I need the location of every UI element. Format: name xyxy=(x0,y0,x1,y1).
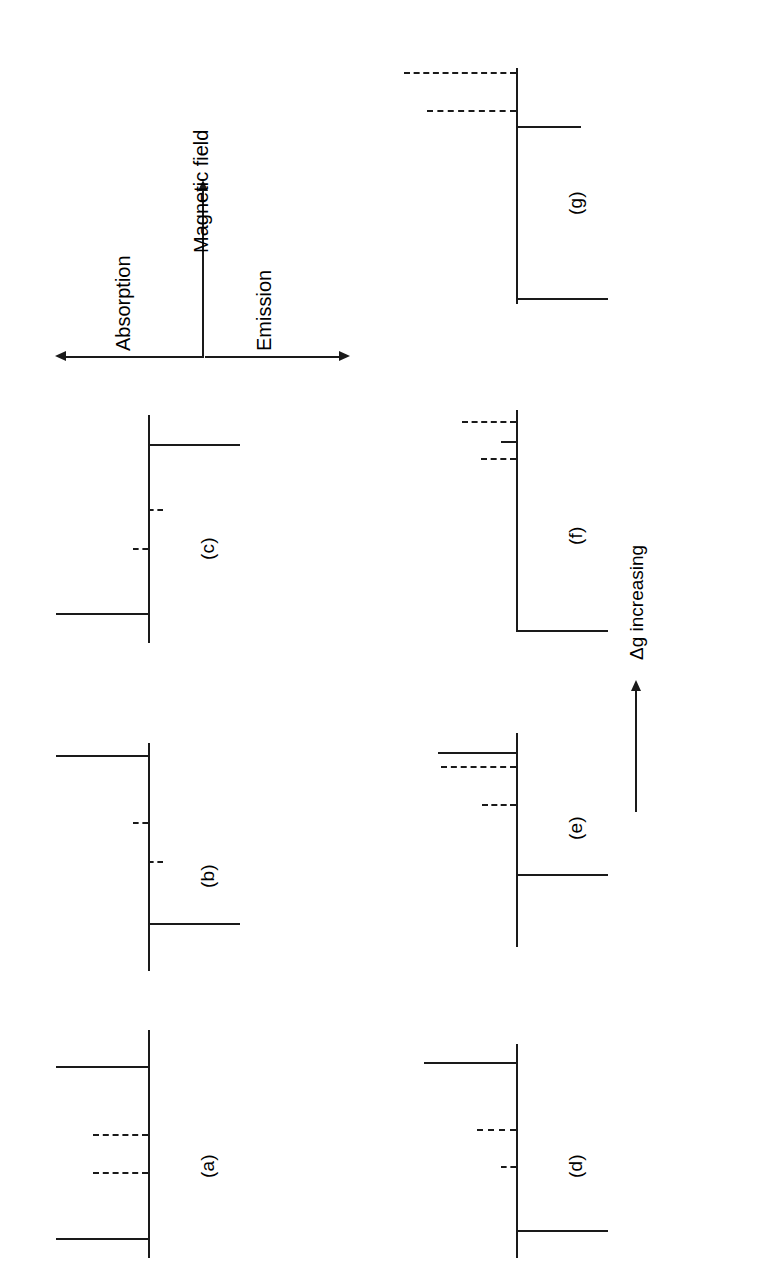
panel-f-caption: (f) xyxy=(565,526,587,545)
delta-g-arrow-line xyxy=(635,690,637,812)
magnetic-field-axis-label: Magnetic field xyxy=(190,130,213,253)
emission-arrowhead xyxy=(339,351,350,361)
panel-f-line-3 xyxy=(501,441,516,443)
panel-c-line-4 xyxy=(56,613,148,615)
panel-d-baseline xyxy=(516,1044,518,1258)
panel-b-line-1 xyxy=(56,755,148,757)
panel-a-line-4 xyxy=(56,1238,148,1240)
panel-e-line-1 xyxy=(516,874,608,876)
intensity-axis-line xyxy=(205,356,341,358)
panel-g-line-4 xyxy=(404,72,516,74)
panel-g-baseline xyxy=(516,68,518,304)
panel-g-caption: (g) xyxy=(565,191,587,215)
panel-a-baseline xyxy=(148,1030,150,1258)
panel-a-line-2 xyxy=(93,1134,148,1136)
panel-g-line-2 xyxy=(516,126,581,128)
panel-a-line-1 xyxy=(56,1066,148,1068)
panel-d-line-3 xyxy=(501,1166,516,1168)
panel-a-line-3 xyxy=(93,1172,148,1174)
panel-f-line-2 xyxy=(481,458,516,460)
panel-e-line-2 xyxy=(438,752,516,754)
panel-e-line-3 xyxy=(441,766,516,768)
panel-e-baseline xyxy=(516,733,518,947)
panel-c-line-3 xyxy=(133,548,148,550)
panel-e-caption: (e) xyxy=(565,816,587,840)
panel-b-baseline xyxy=(148,743,150,971)
delta-g-label: Δg increasing xyxy=(626,545,648,660)
figure-canvas: (a) (b) (c) Magnetic field Emission Abso… xyxy=(0,0,761,1281)
panel-b-caption: (b) xyxy=(197,864,219,888)
panel-c-baseline xyxy=(148,415,150,643)
panel-g-line-1 xyxy=(516,298,608,300)
panel-d-line-2 xyxy=(477,1129,516,1131)
panel-a-caption: (a) xyxy=(197,1154,219,1178)
panel-c-line-1 xyxy=(148,444,240,446)
panel-f-baseline xyxy=(516,410,518,632)
panel-g-line-3 xyxy=(427,110,516,112)
panel-e-line-4 xyxy=(482,804,516,806)
emission-axis-label: Emission xyxy=(253,270,276,351)
panel-d-line-1 xyxy=(424,1062,516,1064)
panel-c-line-2 xyxy=(148,509,163,511)
panel-b-line-4 xyxy=(148,923,240,925)
panel-d-line-4 xyxy=(516,1230,608,1232)
panel-c-caption: (c) xyxy=(197,537,219,560)
absorption-arrowhead xyxy=(55,351,66,361)
panel-f-line-1 xyxy=(516,630,608,632)
delta-g-arrowhead xyxy=(631,680,641,691)
panel-b-line-2 xyxy=(133,822,148,824)
panel-b-line-3 xyxy=(148,861,163,863)
absorption-axis-line-left xyxy=(62,356,204,358)
panel-d-caption: (d) xyxy=(565,1154,587,1178)
panel-f-line-4 xyxy=(462,421,516,423)
absorption-axis-label: Absorption xyxy=(112,255,135,351)
